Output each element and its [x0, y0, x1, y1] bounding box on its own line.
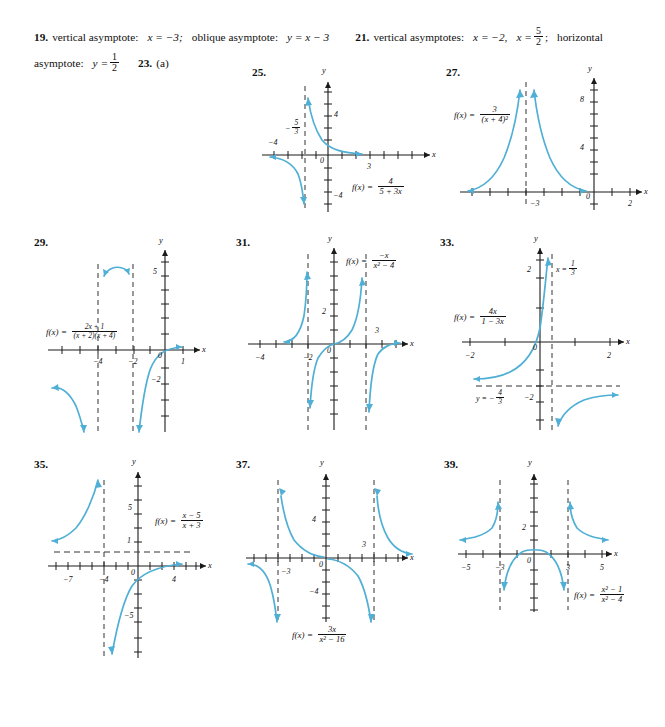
x-tick-label-29-1: −2: [128, 357, 137, 366]
fraction-denominator: x + 3: [181, 520, 203, 530]
horizontal-asymptote-label-33: y = − 4 3: [476, 390, 506, 406]
x-tick-label-27-0: −3: [530, 199, 539, 208]
function-equals-37: =: [308, 630, 313, 640]
answer-21-cont-value: y =: [93, 57, 108, 70]
problem-31: 31.: [236, 236, 446, 436]
fraction-numerator: 5: [292, 119, 300, 127]
fraction-denominator: 2: [534, 36, 543, 47]
x-tick-label-29-0: −4: [93, 357, 102, 366]
y-tick-label-31-0: 2: [322, 307, 326, 316]
x-axis-label-39: x: [614, 548, 618, 558]
graph-27: [446, 70, 656, 218]
function-equals-25: =: [368, 182, 373, 192]
graph-31: [236, 240, 446, 436]
origin-label-25: 0: [320, 156, 324, 165]
x-axis-label-25: x: [432, 149, 436, 159]
function-fraction-25: 4 5 + 3x: [378, 177, 404, 195]
problem-37: 37.: [236, 458, 451, 673]
y-tick-label-37-0: 4: [312, 515, 316, 524]
x-tick-label-29-2: 1: [181, 357, 185, 366]
x-tick-label-31-0: −4: [255, 353, 264, 362]
answer-21-text-b: horizontal: [557, 31, 603, 44]
function-label-35: f(x) = x − 5 x + 3: [155, 512, 205, 530]
x-tick-label-31-1: −2: [303, 353, 312, 362]
fraction-denominator: 2: [110, 62, 119, 73]
x-tick-label-33-0: −2: [465, 351, 474, 360]
y-tick-label-25-0: 4: [334, 110, 338, 119]
fraction-denominator: x² − 4: [372, 260, 397, 270]
y-tick-label-29-1: −2: [151, 375, 160, 384]
problem-33: 33.: [440, 236, 655, 436]
fraction-numerator: x² − 1: [600, 585, 625, 594]
x-axis-label-35: x: [208, 560, 212, 570]
y-tick-label-33-0: 2: [527, 265, 531, 274]
fraction-numerator: 4x: [487, 307, 499, 316]
function-equals-35: =: [171, 516, 176, 526]
x-tick-label-35-2: 4: [172, 575, 176, 584]
y-axis-label-31: y: [328, 233, 332, 243]
function-fraction-29: 2x + 1 (x + 2)(x + 4): [72, 323, 118, 339]
x-tick-label-33-1: 2: [607, 351, 611, 360]
y-tick-label-29-0: 5: [153, 267, 157, 276]
x-tick-label-35-0: −7: [63, 575, 72, 584]
problem-29: 29.: [34, 236, 244, 436]
answer-21-value-a: x = −2,: [473, 31, 507, 44]
graph-33: [440, 240, 655, 436]
asymptote-fraction-25: 5 3: [292, 119, 300, 135]
function-lead-25: f(x): [352, 182, 365, 192]
function-fraction-35: x − 5 x + 3: [181, 511, 203, 529]
function-lead-27: f(x): [454, 110, 467, 120]
graph-35: [34, 462, 249, 668]
fraction-numerator: 3x: [326, 625, 338, 634]
function-label-37: f(x) = 3x x² − 16: [292, 626, 348, 644]
answer-21-cont-text: asymptote:: [34, 57, 84, 70]
y-axis-label-39: y: [528, 457, 532, 467]
function-label-33: f(x) = 4x 1 − 3x: [454, 308, 508, 326]
answer-19-value-a: x = −3;: [147, 31, 182, 44]
function-label-31: f(x) = −x x² − 4: [346, 252, 398, 270]
x-axis-label-33: x: [626, 336, 630, 346]
x-axis-label-37: x: [410, 552, 414, 562]
fraction-numerator: 3: [491, 105, 499, 114]
answer-line-1: 19. vertical asymptote: x = −3; oblique …: [34, 27, 634, 47]
function-lead-39: f(x): [574, 590, 587, 600]
function-equals-29: =: [62, 327, 67, 337]
y-tick-label-35-1: 1: [127, 536, 131, 545]
origin-label-27: 0: [586, 192, 590, 201]
answer-number-21: 21.: [355, 31, 369, 44]
graph-37: [236, 462, 451, 652]
x-tick-label-37-1: 3: [362, 540, 366, 549]
y-axis-label-37: y: [320, 457, 324, 467]
answer-number-19: 19.: [34, 31, 48, 44]
x-tick-label-39-1: −3: [495, 563, 504, 572]
fraction-denominator: x² − 16: [318, 634, 347, 644]
x-tick-label-35-1: −4: [99, 575, 108, 584]
answer-21-semicolon: ;: [545, 31, 548, 44]
x-tick-label-37-0: −3: [281, 567, 290, 576]
x-axis-label-29: x: [202, 344, 206, 354]
x-tick-label-27-1: 2: [628, 199, 632, 208]
fraction-numerator: 1: [110, 52, 119, 62]
fraction-numerator: 2x + 1: [83, 323, 107, 331]
origin-label-35: 0: [131, 568, 135, 577]
function-equals-31: =: [362, 256, 367, 266]
answer-19-text-a: vertical asymptote:: [52, 31, 138, 44]
x-axis-label-27: x: [644, 186, 648, 196]
x-axis-label-31: x: [410, 338, 414, 348]
y-tick-label-25-1: −4: [333, 191, 342, 200]
vertical-asymptote-label-33: x = 1 3: [556, 261, 579, 277]
fraction-numerator: 1: [569, 260, 577, 268]
va-fraction-33: 1 3: [569, 260, 577, 276]
function-lead-29: f(x): [46, 327, 59, 337]
y-tick-label-27-1: 4: [580, 143, 584, 152]
y-axis-label-29: y: [159, 235, 163, 245]
answer-19-text-b: oblique asymptote:: [192, 31, 278, 44]
x-tick-label-39-2: 3: [566, 563, 570, 572]
fraction-denominator: (x + 2)(x + 4): [72, 331, 118, 340]
ha-lead-33: y = −: [476, 394, 494, 403]
y-tick-label-27-0: 8: [580, 95, 584, 104]
origin-label-39: 0: [527, 556, 531, 565]
function-lead-35: f(x): [155, 516, 168, 526]
fraction-numerator: −x: [377, 251, 391, 260]
answer-23-text: (a): [156, 57, 169, 70]
